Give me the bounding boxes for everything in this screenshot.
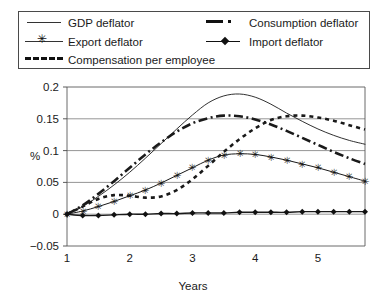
legend-item-compensation-per-employee: Compensation per employee — [24, 51, 215, 68]
series-marker-star: ✳ — [330, 167, 338, 178]
line-sample-solid-icon — [24, 16, 64, 30]
series-marker-diamond — [362, 209, 368, 215]
series-marker-diamond — [190, 210, 196, 216]
legend-item-label: GDP deflator — [68, 16, 134, 30]
series-marker-star: ✳ — [157, 178, 165, 189]
legend-item-gdp-deflator: GDP deflator — [24, 14, 134, 31]
x-tick-label: 5 — [315, 252, 321, 264]
series-marker-diamond — [111, 212, 117, 218]
chart-legend: GDP deflator Export deflator Compensatio… — [18, 11, 370, 69]
series-marker-star: ✳ — [267, 152, 275, 163]
series-marker-star: ✳ — [361, 176, 369, 187]
series-marker-star: ✳ — [314, 162, 322, 173]
legend-item-consumption-deflator: Consumption deflator — [205, 14, 358, 31]
series-marker-star: ✳ — [110, 196, 118, 207]
y-tick-label: 0.05 — [37, 176, 59, 188]
series-marker-diamond — [158, 211, 164, 217]
legend-item-import-deflator: Import deflator — [205, 33, 323, 50]
series-marker-star: ✳ — [283, 155, 291, 166]
y-tick-label: 0 — [53, 208, 59, 220]
series-marker-diamond — [205, 210, 211, 216]
series-marker-diamond — [142, 211, 148, 217]
chart-series-group: ✳✳✳✳✳✳✳✳✳✳✳✳✳✳✳✳✳✳✳✳ — [63, 94, 369, 220]
chart-figure: GDP deflator Export deflator Compensatio… — [0, 0, 386, 297]
series-marker-star: ✳ — [298, 159, 306, 170]
series-marker-star: ✳ — [94, 201, 102, 212]
x-tick-label: 4 — [252, 252, 259, 264]
series-marker-diamond — [95, 213, 101, 219]
series-export-deflator: ✳✳✳✳✳✳✳✳✳✳✳✳✳✳✳✳✳✳✳✳ — [63, 148, 369, 219]
legend-item-label: Export deflator — [68, 35, 143, 49]
x-axis-title: Years — [179, 280, 208, 292]
x-tick-label: 1 — [64, 252, 70, 264]
y-tick-label: 0.15 — [37, 113, 59, 125]
line-sample-dashed-icon — [24, 53, 64, 67]
chart-plot-area: 0.20.150.10.050−0.05 12345 ✳✳✳✳✳✳✳✳✳✳✳✳✳… — [0, 78, 386, 297]
y-axis-tick-labels: 0.20.150.10.050−0.05 — [30, 81, 59, 252]
y-axis-title: % — [30, 150, 40, 162]
series-marker-star: ✳ — [173, 170, 181, 181]
series-marker-diamond — [346, 209, 352, 215]
series-marker-diamond — [221, 210, 227, 216]
series-marker-star: ✳ — [188, 162, 196, 173]
series-marker-diamond — [127, 211, 133, 217]
series-marker-diamond — [299, 209, 305, 215]
y-tick-label: −0.05 — [30, 240, 59, 252]
series-import-deflator — [64, 209, 368, 219]
series-marker-diamond — [315, 209, 321, 215]
x-tick-label: 3 — [189, 252, 195, 264]
series-marker-star: ✳ — [236, 148, 244, 159]
series-marker-star: ✳ — [251, 149, 259, 160]
y-axis-ticks — [63, 87, 67, 246]
chart-canvas: 0.20.150.10.050−0.05 12345 ✳✳✳✳✳✳✳✳✳✳✳✳✳… — [0, 78, 386, 297]
line-sample-dashdot-icon — [205, 16, 245, 30]
y-tick-label: 0.2 — [43, 81, 59, 93]
legend-item-label: Consumption deflator — [249, 16, 358, 30]
x-tick-label: 2 — [127, 252, 133, 264]
legend-item-label: Compensation per employee — [68, 53, 215, 67]
line-sample-star-icon — [24, 35, 64, 49]
x-axis-tick-labels: 12345 — [64, 252, 321, 264]
series-marker-star: ✳ — [204, 155, 212, 166]
y-tick-label: 0.1 — [43, 145, 59, 157]
legend-item-export-deflator: Export deflator — [24, 33, 143, 50]
series-marker-diamond — [174, 211, 180, 217]
series-marker-star: ✳ — [141, 185, 149, 196]
series-marker-star: ✳ — [345, 171, 353, 182]
legend-item-label: Import deflator — [249, 35, 323, 49]
line-sample-diamond-icon — [205, 35, 245, 49]
series-marker-diamond — [331, 209, 337, 215]
